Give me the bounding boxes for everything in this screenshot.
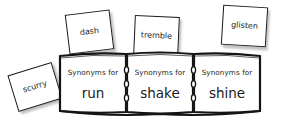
open-book[interactable]: Synonyms for run Synonyms for shake Syno…	[58, 51, 262, 117]
sticky-note-label: scurry	[22, 80, 48, 95]
book-page-shake[interactable]: Synonyms for shake	[127, 51, 193, 117]
page-heading: Synonyms for	[202, 69, 253, 76]
illustration-canvas: scurry dash tremble glisten	[0, 0, 282, 130]
page-headword: shake	[140, 87, 180, 101]
sticky-note-label: dash	[79, 27, 99, 37]
book-page-run[interactable]: Synonyms for run	[60, 51, 126, 117]
sticky-note-glisten[interactable]: glisten	[221, 5, 268, 48]
page-headword: shine	[209, 87, 245, 101]
sticky-note-dash[interactable]: dash	[65, 9, 115, 54]
page-heading: Synonyms for	[135, 69, 186, 76]
sticky-note-label: tremble	[141, 31, 173, 40]
book-page-shine[interactable]: Synonyms for shine	[194, 51, 260, 117]
page-headword: run	[82, 87, 105, 101]
sticky-note-scurry[interactable]: scurry	[7, 62, 62, 112]
page-heading: Synonyms for	[68, 69, 119, 76]
sticky-note-label: glisten	[231, 21, 258, 31]
